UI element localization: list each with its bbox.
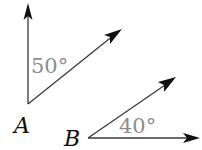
angle-a-label: A	[12, 113, 30, 138]
arrowhead-icon	[158, 77, 176, 92]
arrowhead-icon	[104, 29, 122, 44]
angle-b-measure: 40°	[119, 114, 156, 138]
angle-a: 50° A	[12, 3, 122, 138]
angles-diagram: 50° A 40° B	[0, 0, 202, 150]
angle-b: 40° B	[63, 77, 200, 150]
angle-b-label: B	[63, 126, 80, 150]
angle-a-measure: 50°	[31, 54, 68, 78]
